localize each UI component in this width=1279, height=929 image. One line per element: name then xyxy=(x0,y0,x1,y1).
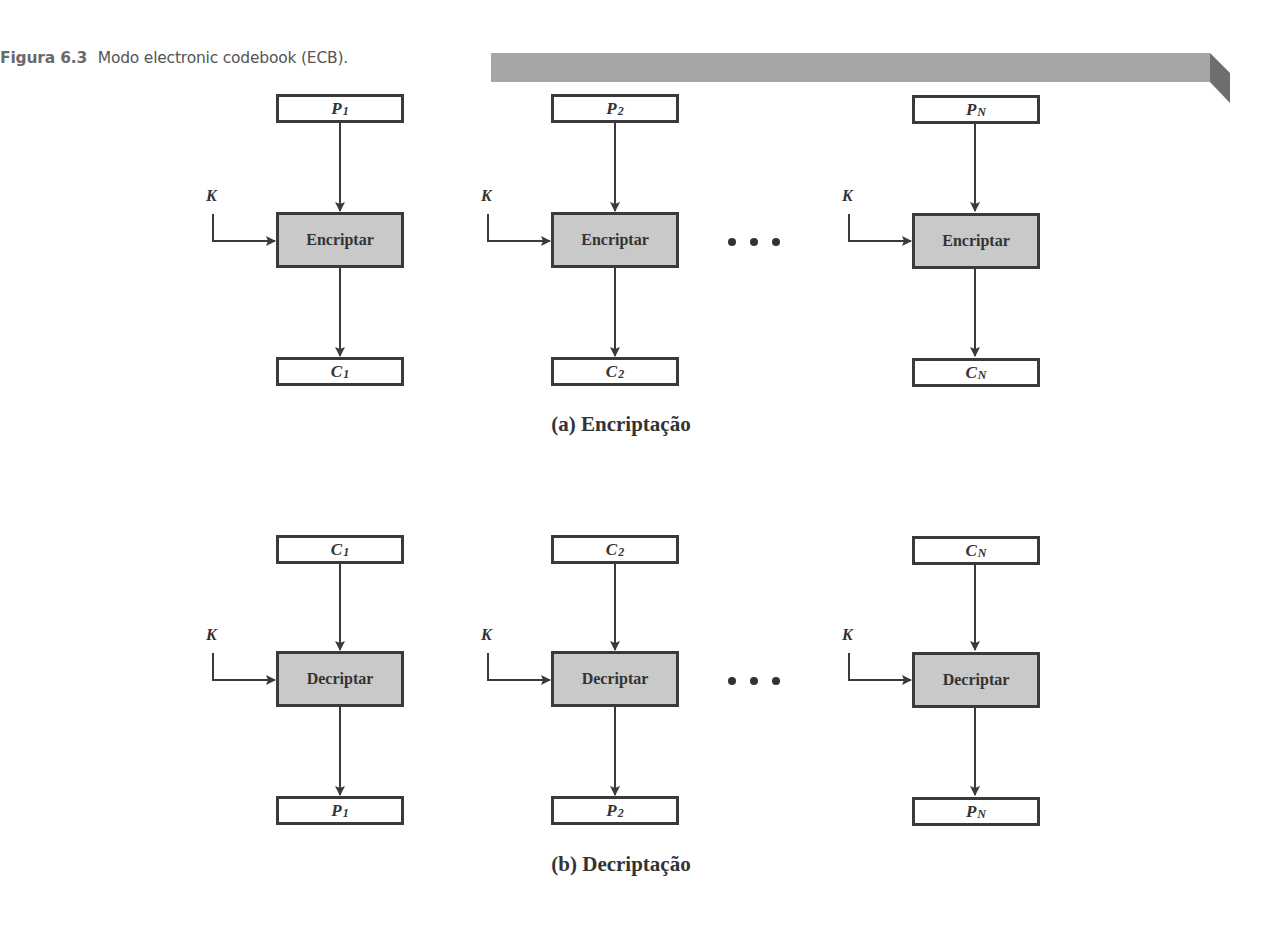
ciphertext-block-1: C1 xyxy=(276,357,404,386)
encryption-title: (a) Encriptação xyxy=(471,412,771,437)
ellipsis-icon xyxy=(728,238,780,246)
block-subscript: N xyxy=(977,807,986,822)
encrypt-block-1: Encriptar xyxy=(276,212,404,268)
key-label: K xyxy=(481,626,492,644)
decrypt-block-1: Decriptar xyxy=(276,651,404,707)
diagram-connectors xyxy=(0,0,1279,929)
key-label: K xyxy=(206,626,217,644)
block-subscript: 2 xyxy=(618,104,624,119)
block-label: P xyxy=(966,802,976,822)
encrypt-block-2: Encriptar xyxy=(551,212,679,268)
block-label: C xyxy=(331,540,342,560)
block-label: P xyxy=(331,99,341,119)
plaintext-block-n: PN xyxy=(912,95,1040,124)
block-subscript: 2 xyxy=(618,545,624,560)
block-subscript: 1 xyxy=(343,104,349,119)
ciphertext-input-block-n: CN xyxy=(912,536,1040,565)
decrypt-block-2: Decriptar xyxy=(551,651,679,707)
block-label: C xyxy=(606,362,617,382)
decrypt-block-n: Decriptar xyxy=(912,652,1040,708)
block-label: P xyxy=(606,801,616,821)
block-subscript: 1 xyxy=(343,806,349,821)
block-subscript: 2 xyxy=(618,806,624,821)
block-subscript: 2 xyxy=(618,367,624,382)
block-label: C xyxy=(331,362,342,382)
key-label: K xyxy=(206,187,217,205)
block-label: C xyxy=(965,541,976,561)
block-subscript: 1 xyxy=(343,367,349,382)
ciphertext-block-2: C2 xyxy=(551,357,679,386)
block-label: C xyxy=(606,540,617,560)
block-subscript: N xyxy=(978,546,987,561)
block-label: P xyxy=(331,801,341,821)
block-label: P xyxy=(606,99,616,119)
ciphertext-input-block-2: C2 xyxy=(551,535,679,564)
plaintext-output-block-1: P1 xyxy=(276,796,404,825)
plaintext-output-block-2: P2 xyxy=(551,796,679,825)
block-label: P xyxy=(966,100,976,120)
key-label: K xyxy=(842,187,853,205)
encrypt-block-n: Encriptar xyxy=(912,213,1040,269)
block-subscript: N xyxy=(977,105,986,120)
decryption-title: (b) Decriptação xyxy=(471,852,771,877)
block-subscript: 1 xyxy=(343,545,349,560)
key-label: K xyxy=(842,626,853,644)
ellipsis-icon xyxy=(728,677,780,685)
plaintext-block-2: P2 xyxy=(551,94,679,123)
block-label: C xyxy=(965,363,976,383)
ciphertext-block-n: CN xyxy=(912,358,1040,387)
plaintext-output-block-n: PN xyxy=(912,797,1040,826)
key-label: K xyxy=(481,187,492,205)
plaintext-block-1: P1 xyxy=(276,94,404,123)
block-subscript: N xyxy=(978,368,987,383)
ciphertext-input-block-1: C1 xyxy=(276,535,404,564)
